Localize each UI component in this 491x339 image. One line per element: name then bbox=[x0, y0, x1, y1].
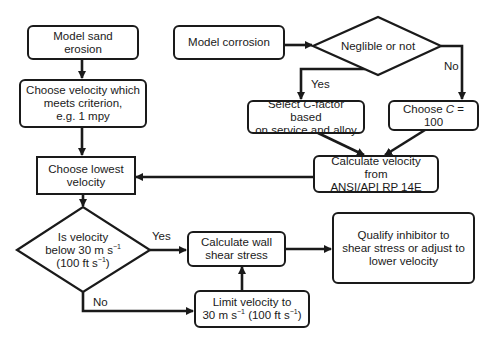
node-negligible-decision: Neglible or not bbox=[330, 38, 426, 54]
node-calculate-wall-shear: Calculate wall shear stress bbox=[187, 231, 286, 267]
node-label-line: 30 m s−1 (100 ft s−1) bbox=[202, 309, 301, 322]
node-limit-velocity: Limit velocity to 30 m s−1 (100 ft s−1) bbox=[194, 290, 310, 328]
node-label: Neglible or not bbox=[341, 40, 415, 53]
node-choose-c-100: Choose C = 100 bbox=[388, 100, 479, 131]
node-qualify-inhibitor: Qualify inhibitor to shear stress or adj… bbox=[332, 212, 475, 284]
node-model-corrosion: Model corrosion bbox=[173, 25, 285, 60]
node-label-line: Calculate wall bbox=[201, 236, 272, 249]
node-select-c-factor: Select C-factor based on service and all… bbox=[247, 100, 365, 134]
node-label: Choose C = 100 bbox=[394, 103, 473, 129]
node-label-line: velocity bbox=[67, 176, 105, 189]
node-label-line: shear stress bbox=[205, 249, 268, 262]
edge-label-velocity-no: No bbox=[93, 296, 108, 308]
node-label-line: ANSI/API RP 14E bbox=[330, 181, 421, 194]
node-label-line: Choose velocity which bbox=[26, 84, 140, 97]
edge-label-negligible-no: No bbox=[444, 60, 459, 72]
node-label-line: Choose lowest bbox=[48, 163, 123, 176]
edge-label-velocity-yes: Yes bbox=[152, 230, 171, 242]
node-calculate-velocity-api: Calculate velocity from ANSI/API RP 14E bbox=[313, 155, 439, 193]
node-label: Model corrosion bbox=[188, 36, 270, 49]
node-choose-velocity-criterion: Choose velocity which meets criterion, e… bbox=[19, 79, 147, 128]
node-label-line: below 30 m s−1 bbox=[45, 244, 121, 257]
edge-label-negligible-yes: Yes bbox=[311, 78, 330, 90]
node-model-sand-erosion: Model sand erosion bbox=[27, 25, 139, 60]
node-velocity-limit-decision: Is velocity below 30 m s−1 (100 ft s−1) bbox=[38, 228, 128, 272]
node-label: Model sand erosion bbox=[33, 30, 133, 56]
edge-c100-to-calc bbox=[385, 130, 425, 155]
node-label-line: (100 ft s−1) bbox=[56, 257, 109, 270]
node-label-line: on service and alloy bbox=[255, 124, 357, 137]
node-choose-lowest-velocity: Choose lowest velocity bbox=[36, 156, 136, 195]
node-label-line: Is velocity bbox=[58, 231, 109, 244]
node-label-line: Calculate velocity from bbox=[319, 155, 433, 181]
node-label-line: meets criterion, bbox=[44, 97, 123, 110]
node-label-line: lower velocity bbox=[369, 255, 438, 268]
edge-decision-no bbox=[441, 46, 462, 99]
node-label-line: Select C-factor based bbox=[253, 98, 359, 124]
node-label-line: Limit velocity to bbox=[213, 296, 292, 309]
node-label-line: shear stress or adjust to bbox=[342, 242, 465, 255]
node-label-line: e.g. 1 mpy bbox=[56, 110, 110, 123]
node-label-line: Qualify inhibitor to bbox=[357, 229, 449, 242]
